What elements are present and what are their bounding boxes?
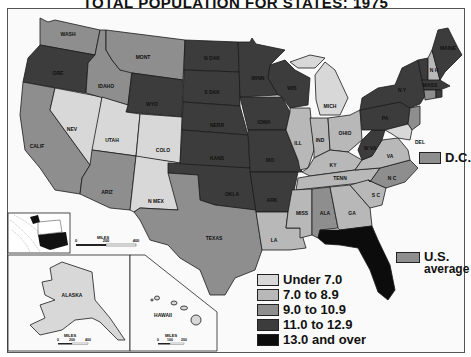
legend-label: 7.0 to 8.9: [283, 287, 339, 302]
dc-label: D.C.: [445, 150, 471, 165]
label-wva: W VA: [364, 145, 377, 151]
label-idaho: IDAHO: [98, 83, 114, 89]
label-utah: UTAH: [105, 137, 119, 143]
legend-swatch: [257, 304, 279, 316]
label-wash: WASH: [61, 31, 76, 37]
us-average-indicator: U.S. average: [396, 251, 469, 276]
label-ndak: N DAK: [204, 55, 220, 61]
hawaii-scale-0: 0: [157, 338, 159, 342]
label-okla: OKLA: [225, 191, 240, 197]
alaska-scale-bar: [58, 343, 72, 345]
us-average-sublabel: average: [424, 263, 469, 276]
us-average-swatch: [396, 252, 420, 263]
label-mo: MO: [266, 157, 274, 163]
legend: Under 7.0 7.0 to 8.9 9.0 to 10.9 11.0 to…: [257, 272, 366, 347]
legend-label: Under 7.0: [283, 272, 342, 287]
hawaii-scale-bar: [158, 343, 170, 345]
state-iowa[interactable]: [240, 97, 290, 130]
legend-item-9-to-10-9: 9.0 to 10.9: [257, 302, 366, 317]
main-scale-0: 0: [75, 238, 78, 243]
state-ri[interactable]: [436, 90, 442, 98]
legend-swatch: [257, 319, 279, 331]
us-map: WASH ORE CALIF NEV IDAHO MONT WYO UTAH C…: [0, 0, 471, 357]
legend-swatch: [257, 274, 279, 286]
label-mass: MASS: [423, 82, 438, 88]
main-scale-bar-half: [106, 244, 136, 246]
label-hawaii: HAWAII: [154, 312, 172, 318]
label-nmex: N MEX: [148, 198, 165, 204]
label-calif: CALIF: [30, 143, 45, 149]
label-nh: N H: [430, 67, 439, 73]
legend-swatch: [257, 289, 279, 301]
label-nc: N C: [388, 175, 397, 181]
hawaii-scale-100: 100: [167, 338, 173, 342]
label-nev: NEV: [67, 126, 78, 132]
label-del: DEL: [415, 139, 425, 145]
dc-swatch: [419, 152, 441, 164]
label-iowa: IOWA: [257, 119, 271, 125]
label-alaska: ALASKA: [62, 292, 83, 298]
label-miss: MISS: [296, 210, 309, 216]
state-conn[interactable]: [424, 90, 436, 100]
label-wyo: WYO: [146, 101, 158, 107]
legend-swatch: [257, 334, 279, 346]
main-scale-bar: [76, 244, 106, 246]
label-sdak: S DAK: [204, 89, 220, 95]
label-ore: ORE: [53, 70, 65, 76]
legend-label: 9.0 to 10.9: [283, 302, 346, 317]
label-nebr: NEBR: [210, 122, 225, 128]
state-colo[interactable]: [136, 114, 182, 163]
label-pa: PA: [382, 115, 389, 121]
legend-item-13-and-over: 13.0 and over: [257, 332, 366, 347]
legend-item-11-to-12-9: 11.0 to 12.9: [257, 317, 366, 332]
label-colo: COLO: [156, 147, 171, 153]
label-tenn: TENN: [333, 175, 347, 181]
legend-label: 11.0 to 12.9: [283, 317, 352, 332]
label-maine: MAINE: [440, 45, 457, 51]
label-wis: WIS: [287, 85, 297, 91]
main-scale-400: 400: [133, 238, 140, 243]
label-mich: MICH: [324, 103, 337, 109]
state-sdak[interactable]: [183, 70, 240, 106]
alaska-scale-0: 0: [57, 338, 59, 342]
label-sc: S C: [372, 192, 381, 198]
label-ill: ILL: [294, 140, 302, 146]
hawaii-scale-bar-half: [170, 343, 184, 345]
label-ark: ARK: [267, 197, 278, 203]
state-kans[interactable]: [180, 130, 250, 168]
label-va: VA: [387, 153, 394, 159]
state-wyo[interactable]: [126, 73, 183, 117]
alaska-scale-bar-half: [72, 343, 88, 345]
legend-item-under-7: Under 7.0: [257, 272, 366, 287]
alaska-scale-200: 200: [69, 338, 75, 342]
dc-indicator: D.C.: [419, 150, 471, 165]
legend-item-7-to-8-9: 7.0 to 8.9: [257, 287, 366, 302]
state-ny[interactable]: [360, 60, 425, 110]
label-mont: MONT: [136, 54, 151, 60]
legend-label: 13.0 and over: [283, 332, 366, 347]
label-ohio: OHIO: [339, 130, 352, 136]
label-ind: IND: [316, 137, 325, 143]
label-texas: TEXAS: [206, 235, 223, 241]
label-kans: KANS: [210, 155, 225, 161]
label-ky: KY: [330, 162, 338, 168]
hawaii-scale-200: 200: [181, 338, 187, 342]
label-minn: MINN: [252, 75, 265, 81]
alaska-scale-400: 400: [85, 338, 91, 342]
main-scale-200: 200: [103, 238, 110, 243]
label-ga: GA: [348, 210, 356, 216]
state-nebr[interactable]: [182, 102, 248, 135]
label-la: LA: [271, 237, 278, 243]
label-ariz: ARIZ: [101, 189, 113, 195]
label-ala: ALA: [320, 210, 331, 216]
label-ny: N Y: [398, 87, 407, 93]
